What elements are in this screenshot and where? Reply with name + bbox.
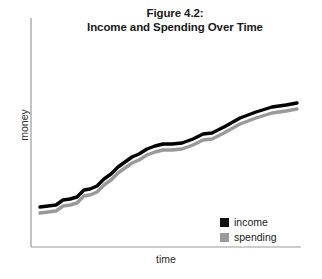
legend-item-income: income [220, 216, 277, 229]
legend-label-spending: spending [234, 232, 277, 243]
legend-label-income: income [234, 217, 268, 228]
chart-legend: income spending [220, 216, 277, 246]
figure-container: Figure 4.2: Income and Spending Over Tim… [0, 0, 322, 279]
legend-swatch-spending-icon [220, 233, 229, 242]
legend-swatch-income-icon [220, 218, 229, 227]
x-axis-label: time [31, 253, 301, 265]
y-axis-label: money [18, 95, 30, 155]
legend-item-spending: spending [220, 231, 277, 244]
